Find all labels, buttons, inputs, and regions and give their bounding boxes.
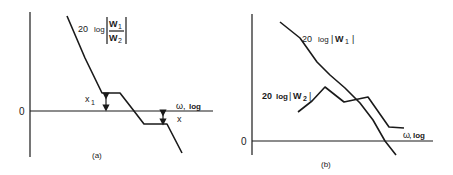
zero-label-b: 0 [241, 136, 247, 147]
svg-text:log: log [94, 25, 105, 34]
svg-text:20: 20 [78, 24, 88, 34]
svg-text:1: 1 [118, 23, 122, 30]
svg-text:20: 20 [302, 34, 312, 44]
svg-text:|: | [331, 34, 333, 44]
svg-text:W: W [109, 19, 118, 29]
svg-text:20: 20 [262, 91, 272, 101]
zero-label-a: 0 [19, 106, 25, 117]
svg-text:|: | [352, 34, 354, 44]
svg-text:x: x [177, 114, 182, 124]
w2-curve-label: 20 log | W 2 | [262, 91, 311, 102]
x-dimension-arrow: x [163, 113, 182, 124]
ratio-curve [67, 16, 182, 153]
panel-a: 0 20 log W 1 W 2 ω , log x 1 [19, 12, 213, 160]
svg-text:2: 2 [118, 37, 122, 44]
svg-text:x: x [85, 94, 90, 104]
caption-a: (a) [92, 151, 102, 160]
svg-text:|: | [289, 91, 291, 101]
caption-b: (b) [321, 160, 331, 169]
svg-text:ω: ω [176, 101, 183, 111]
svg-text:1: 1 [345, 38, 349, 45]
x1-dimension-arrow: x 1 [85, 94, 106, 108]
svg-text:1: 1 [91, 99, 95, 106]
x-axis-label-b: ω , log [403, 130, 425, 140]
svg-text:W: W [109, 33, 118, 43]
svg-text:log: log [276, 92, 288, 101]
svg-text:,: , [409, 130, 412, 140]
svg-text:|: | [309, 91, 311, 101]
svg-text:log: log [318, 35, 329, 44]
svg-text:,: , [183, 101, 186, 111]
svg-text:W: W [293, 91, 302, 101]
panel-b: 0 20 log | W 1 | 20 log | W 2 | ω , log … [241, 14, 433, 169]
figure: 0 20 log W 1 W 2 ω , log x 1 [0, 0, 453, 175]
svg-text:W: W [335, 34, 344, 44]
w1-curve-label: 20 log | W 1 | [302, 34, 354, 45]
svg-text:log: log [413, 131, 425, 140]
ratio-curve-label: 20 log W 1 W 2 [78, 17, 126, 44]
svg-text:log: log [189, 102, 201, 111]
svg-text:2: 2 [303, 95, 307, 102]
x-axis-label-a: ω , log [176, 101, 201, 111]
